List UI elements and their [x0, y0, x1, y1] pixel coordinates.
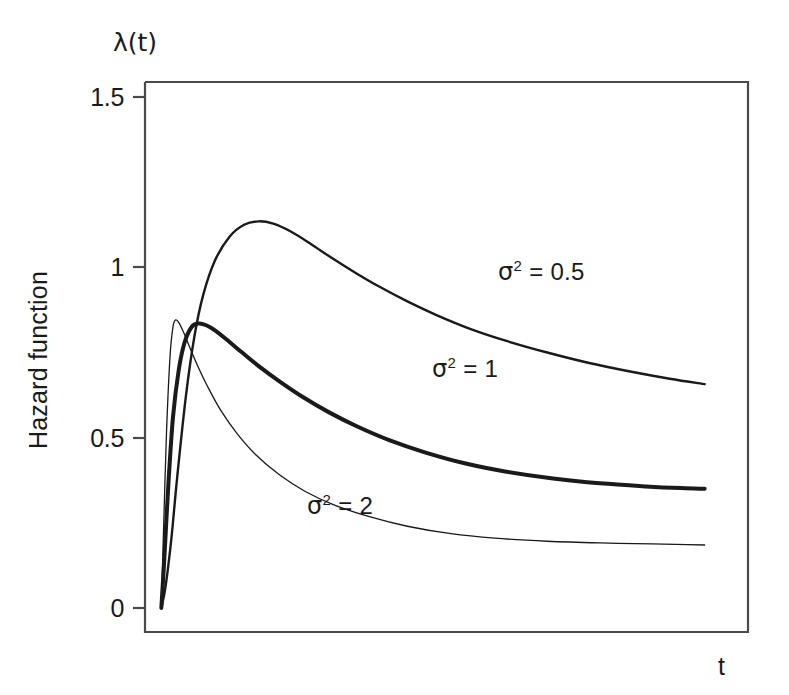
sigma-value: 1 [484, 355, 498, 382]
sigma-exponent: 2 [514, 257, 523, 274]
y-axis-tick-marks [133, 97, 145, 608]
sigma-symbol: σ [432, 355, 448, 383]
sigma-value: 2 [359, 492, 373, 519]
sigma-exponent: 2 [323, 491, 332, 508]
hazard-function-figure: 1.5 1 0.5 0 λ(t) t Hazard function σ2 = … [0, 0, 789, 695]
y-axis-title: Hazard function [24, 271, 53, 449]
equals-sign: = [331, 492, 359, 519]
data-series-layer [161, 221, 704, 608]
sigma-symbol: σ [307, 492, 323, 520]
y-tick-label-0: 0 [62, 594, 124, 623]
annotation-sigma-2: σ2 = 2 [307, 492, 373, 520]
annotation-sigma-1: σ2 = 1 [432, 355, 498, 383]
sigma-value: 0.5 [550, 258, 584, 285]
equals-sign: = [522, 258, 550, 285]
series-line-sigma-0-5 [161, 221, 704, 608]
y-axis-title-wrap: Hazard function [20, 230, 56, 490]
annotation-sigma-0-5: σ2 = 0.5 [498, 258, 585, 286]
equals-sign: = [456, 355, 484, 382]
y-tick-label-1: 1 [62, 253, 124, 282]
y-tick-label-1-5: 1.5 [62, 83, 124, 112]
y-tick-label-0-5: 0.5 [62, 424, 124, 453]
sigma-symbol: σ [498, 258, 514, 286]
sigma-exponent: 2 [448, 354, 457, 371]
x-axis-symbol-label: t [718, 652, 725, 681]
y-axis-symbol-label: λ(t) [113, 28, 157, 57]
